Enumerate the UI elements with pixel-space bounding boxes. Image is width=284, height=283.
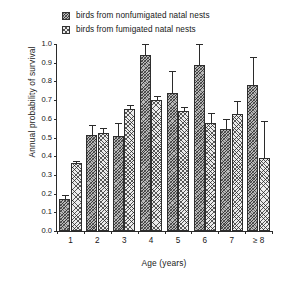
y-tick-mark [54, 194, 57, 195]
legend-swatch-nonfumigated-icon [62, 12, 70, 20]
y-axis-title: Annual probability of survival [27, 7, 37, 197]
error-bar [226, 119, 227, 129]
x-tick-mark [272, 231, 273, 234]
error-bar-cap [169, 71, 176, 72]
legend-label-fumigated: birds from fumigated natal nests [76, 25, 196, 34]
x-tick-label: 3 [122, 236, 127, 245]
bar [59, 199, 70, 231]
x-tick-mark [57, 231, 58, 234]
error-bar-cap [127, 105, 134, 106]
y-tick-mark [54, 119, 57, 120]
figure-bar-chart: birds from nonfumigated natal nests bird… [0, 0, 284, 283]
bar [167, 93, 178, 231]
bar [140, 55, 151, 231]
x-tick-mark [165, 231, 166, 234]
y-tick-mark [54, 81, 57, 82]
y-tick-label: 0.0 [41, 227, 52, 235]
y-tick-mark [54, 175, 57, 176]
bar [220, 129, 231, 231]
legend-item-nonfumigated: birds from nonfumigated natal nests [62, 9, 262, 22]
error-bar [92, 125, 93, 134]
bar [151, 100, 162, 231]
error-bar-cap [223, 119, 230, 120]
error-bar-cap [73, 161, 80, 162]
bar [232, 114, 243, 231]
x-tick-mark [84, 231, 85, 234]
error-bar-cap [89, 125, 96, 126]
legend-item-fumigated: birds from fumigated natal nests [62, 23, 262, 36]
x-tick-mark [111, 231, 112, 234]
y-tick-label: 0.9 [41, 59, 52, 67]
error-bar-cap [250, 57, 257, 58]
x-tick-label: 2 [95, 236, 100, 245]
x-tick-label: 6 [203, 236, 208, 245]
x-tick-label: ≥ 8 [253, 236, 264, 245]
y-tick-label: 1.0 [41, 40, 52, 48]
bar [98, 133, 109, 231]
y-tick-label: 0.2 [41, 190, 52, 198]
bar [113, 136, 124, 231]
error-bar [237, 101, 238, 114]
error-bar [118, 123, 119, 136]
y-tick-mark [54, 63, 57, 64]
y-tick-mark [54, 156, 57, 157]
x-tick-label: 5 [176, 236, 181, 245]
y-tick-mark [54, 212, 57, 213]
y-tick-label: 0.4 [41, 152, 52, 160]
bar [194, 65, 205, 231]
error-bar [253, 57, 254, 85]
error-bar-cap [181, 107, 188, 108]
bar [259, 158, 270, 231]
error-bar-cap [208, 113, 215, 114]
x-tick-label: 1 [68, 236, 73, 245]
plot-area: 0.00.10.20.30.40.50.60.70.80.91.0 123456… [57, 44, 272, 231]
x-tick-mark [245, 231, 246, 234]
bar [124, 109, 135, 231]
legend-swatch-fumigated-icon [62, 26, 70, 34]
chart-legend: birds from nonfumigated natal nests bird… [62, 9, 262, 37]
bar [71, 163, 82, 231]
error-bar-cap [100, 128, 107, 129]
legend-label-nonfumigated: birds from nonfumigated natal nests [76, 11, 210, 20]
error-bar [199, 44, 200, 65]
error-bar-cap [154, 96, 161, 97]
bar [247, 85, 258, 231]
x-tick-label: 4 [149, 236, 154, 245]
y-tick-label: 0.7 [41, 96, 52, 104]
y-tick-label: 0.6 [41, 115, 52, 123]
y-tick-mark [54, 44, 57, 45]
bar [86, 135, 97, 231]
bar [178, 111, 189, 231]
y-tick-label: 0.1 [41, 209, 52, 217]
x-tick-label: 7 [229, 236, 234, 245]
x-axis-title: Age (years) [56, 258, 272, 268]
error-bar-cap [261, 121, 268, 122]
x-tick-mark [138, 231, 139, 234]
error-bar-cap [196, 44, 203, 45]
x-tick-mark [191, 231, 192, 234]
error-bar-cap [115, 123, 122, 124]
error-bar [172, 71, 173, 93]
error-bar [211, 113, 212, 123]
bar [205, 123, 216, 231]
y-tick-label: 0.8 [41, 78, 52, 86]
error-bar [264, 121, 265, 158]
x-tick-mark [218, 231, 219, 234]
error-bar [145, 44, 146, 55]
error-bar-cap [62, 195, 69, 196]
y-tick-mark [54, 138, 57, 139]
error-bar-cap [234, 101, 241, 102]
error-bar-cap [142, 44, 149, 45]
y-tick-label: 0.5 [41, 134, 52, 142]
y-tick-mark [54, 100, 57, 101]
y-tick-label: 0.3 [41, 171, 52, 179]
